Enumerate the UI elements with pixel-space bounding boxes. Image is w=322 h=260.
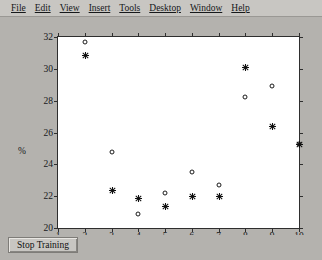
y-tick-label: 26 — [44, 128, 54, 138]
x-tick — [192, 228, 193, 232]
plot-area: 20222426283032 12345678910 — [57, 36, 300, 229]
y-tick-right — [299, 133, 303, 134]
y-tick-label: 30 — [44, 64, 54, 74]
menu-item-edit-label: Edit — [35, 3, 51, 13]
y-tick — [54, 164, 58, 165]
y-tick — [54, 37, 58, 38]
x-tick-top — [272, 33, 273, 37]
data-point-circle — [109, 149, 114, 154]
x-tick — [272, 228, 273, 232]
menu-item-tools[interactable]: Tools — [115, 2, 145, 15]
menu-item-tools-label: Tools — [119, 3, 140, 13]
stop-training-button[interactable]: Stop Training — [8, 237, 78, 253]
x-tick-top — [85, 33, 86, 37]
x-tick — [165, 228, 166, 232]
x-tick-top — [165, 33, 166, 37]
data-point-circle — [243, 95, 248, 100]
menu-item-desktop-label: Desktop — [149, 3, 181, 13]
y-tick-label: 32 — [44, 32, 54, 42]
menu-item-insert[interactable]: Insert — [85, 2, 116, 15]
data-point-star — [188, 193, 195, 200]
y-tick-label: 22 — [44, 191, 54, 201]
x-tick-top — [112, 33, 113, 37]
x-tick — [219, 228, 220, 232]
x-tick-top — [219, 33, 220, 37]
x-tick-top — [245, 33, 246, 37]
y-axis-label: % — [18, 146, 26, 156]
menu-item-file[interactable]: File — [7, 2, 31, 15]
x-tick-top — [138, 33, 139, 37]
data-point-circle — [270, 84, 275, 89]
menu-item-view[interactable]: View — [56, 2, 85, 15]
menu-item-desktop[interactable]: Desktop — [145, 2, 186, 15]
x-tick — [245, 228, 246, 232]
data-point-circle — [189, 170, 194, 175]
y-tick-right — [299, 101, 303, 102]
data-point-circle — [216, 183, 221, 188]
data-point-circle — [82, 39, 87, 44]
x-tick-top — [299, 33, 300, 37]
y-tick-right — [299, 69, 303, 70]
y-tick-right — [299, 196, 303, 197]
data-point-star — [215, 193, 222, 200]
y-tick — [54, 133, 58, 134]
data-point-star — [162, 202, 169, 209]
menu-item-file-label: File — [11, 3, 26, 13]
y-tick — [54, 228, 58, 229]
y-tick — [54, 101, 58, 102]
menu-item-view-label: View — [60, 3, 80, 13]
data-point-star — [296, 140, 303, 147]
data-point-circle — [163, 190, 168, 195]
data-point-star — [81, 51, 88, 58]
y-tick-right — [299, 37, 303, 38]
menu-item-insert-label: Insert — [89, 3, 111, 13]
y-tick-right — [299, 164, 303, 165]
y-tick-label: 20 — [44, 223, 54, 233]
y-tick — [54, 69, 58, 70]
menu-item-window-label: Window — [190, 3, 222, 13]
y-tick — [54, 196, 58, 197]
x-tick-top — [58, 33, 59, 37]
x-tick — [299, 228, 300, 232]
data-point-star — [242, 64, 249, 71]
data-point-star — [135, 194, 142, 201]
menu-item-help[interactable]: Help — [227, 2, 254, 15]
figure-canvas: % 20222426283032 12345678910 样本/组 — [0, 17, 322, 235]
y-tick-label: 24 — [44, 159, 54, 169]
figure-window: File Edit View Insert Tools Desktop Wind… — [0, 0, 322, 260]
y-tick-right — [299, 228, 303, 229]
bottom-bar: Stop Training — [0, 235, 322, 260]
y-tick-label: 28 — [44, 96, 54, 106]
data-point-circle — [297, 141, 302, 146]
data-point-circle — [136, 211, 141, 216]
menu-item-edit[interactable]: Edit — [31, 2, 56, 15]
data-point-star — [108, 186, 115, 193]
x-tick — [138, 228, 139, 232]
x-tick-top — [192, 33, 193, 37]
menu-item-help-label: Help — [231, 3, 249, 13]
x-tick — [85, 228, 86, 232]
x-tick — [112, 228, 113, 232]
x-tick — [58, 228, 59, 232]
menu-item-window[interactable]: Window — [186, 2, 227, 15]
data-point-star — [269, 123, 276, 130]
menu-bar: File Edit View Insert Tools Desktop Wind… — [0, 0, 322, 17]
